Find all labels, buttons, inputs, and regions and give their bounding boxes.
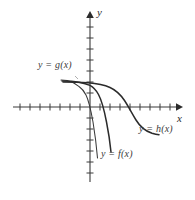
function-graph-figure: y x y = g(x) y = f(x) y = h(x)	[0, 0, 195, 200]
curve-label-h: y = h(x)	[139, 124, 173, 134]
y-axis-arrowhead	[86, 11, 94, 18]
x-axis-label: x	[177, 113, 182, 124]
curve-g	[61, 80, 98, 158]
curve-label-f: y = f(x)	[101, 149, 133, 159]
g-label-leader	[75, 76, 78, 79]
curve-label-g: y = g(x)	[38, 60, 72, 70]
x-axis-arrowhead	[176, 103, 183, 111]
curve-f	[62, 81, 111, 152]
y-axis-label: y	[97, 7, 102, 18]
coordinate-plane	[0, 0, 195, 200]
